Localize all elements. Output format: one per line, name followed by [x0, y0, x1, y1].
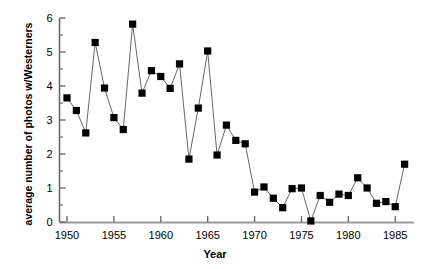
data-point-marker	[251, 188, 258, 195]
data-point-marker	[298, 184, 305, 191]
x-tick-label: 1965	[195, 229, 219, 241]
data-point-marker	[110, 114, 117, 121]
data-point-marker	[260, 183, 267, 190]
data-point-marker	[129, 21, 136, 28]
y-tick-label: 0	[46, 216, 52, 228]
data-point-marker	[373, 200, 380, 207]
data-point-marker	[204, 47, 211, 54]
data-point-marker	[382, 198, 389, 205]
data-point-marker	[92, 39, 99, 46]
data-point-marker	[232, 137, 239, 144]
x-tick-label: 1955	[102, 229, 126, 241]
data-point-marker	[185, 156, 192, 163]
y-tick-label: 3	[46, 114, 52, 126]
data-point-marker	[317, 192, 324, 199]
x-tick-label: 1975	[289, 229, 313, 241]
x-tick-label: 1970	[242, 229, 266, 241]
y-tick-label: 5	[46, 46, 52, 58]
data-point-marker	[157, 73, 164, 80]
x-axis-title: Year	[0, 248, 430, 260]
data-point-marker	[120, 126, 127, 133]
data-point-marker	[63, 94, 70, 101]
data-point-marker	[326, 199, 333, 206]
y-tick-label: 1	[46, 182, 52, 194]
data-point-marker	[354, 174, 361, 181]
data-point-marker	[401, 161, 408, 168]
y-tick-label: 2	[46, 148, 52, 160]
data-point-marker	[364, 184, 371, 191]
data-point-marker	[223, 122, 230, 129]
data-point-marker	[345, 192, 352, 199]
data-point-marker	[392, 203, 399, 210]
data-point-marker	[176, 60, 183, 67]
series-line	[67, 24, 405, 221]
data-point-marker	[335, 191, 342, 198]
tick-layer	[60, 18, 396, 222]
y-tick-label: 6	[46, 12, 52, 24]
data-point-marker	[213, 151, 220, 158]
data-point-marker	[279, 204, 286, 211]
data-point-marker	[307, 217, 314, 224]
x-tick-label: 1985	[383, 229, 407, 241]
data-point-marker	[288, 185, 295, 192]
data-point-marker	[270, 195, 277, 202]
data-point-marker	[138, 90, 145, 97]
chart-figure: 195019551960196519701975198019850123456 …	[0, 0, 430, 269]
data-point-marker	[82, 129, 89, 136]
y-tick-label: 4	[46, 80, 52, 92]
x-tick-label: 1960	[149, 229, 173, 241]
data-point-marker	[148, 67, 155, 74]
x-tick-label: 1980	[336, 229, 360, 241]
data-point-marker	[101, 84, 108, 91]
data-point-marker	[73, 107, 80, 114]
data-point-marker	[167, 85, 174, 92]
line-chart-plot: 195019551960196519701975198019850123456	[0, 0, 430, 269]
y-axis-title: average number of photos w/Westerners	[22, 8, 34, 240]
data-series-layer	[63, 21, 408, 225]
data-point-marker	[242, 140, 249, 147]
x-tick-label: 1950	[55, 229, 79, 241]
data-point-marker	[195, 105, 202, 112]
